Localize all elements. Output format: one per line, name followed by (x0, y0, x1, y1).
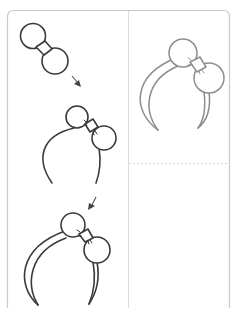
headband-outer-left (24, 231, 65, 305)
headband-outer-right (89, 262, 94, 304)
arrow-down-left-icon (88, 197, 96, 210)
step-3-headband (24, 213, 110, 305)
arrow-down-right-icon (72, 76, 81, 87)
step-1-bow (21, 24, 69, 75)
bow-right-loop (92, 126, 116, 150)
drawing-worksheet: how to draw a headband with bow (0, 0, 235, 311)
final-headband-preview (140, 39, 224, 130)
headband-arc-right (96, 148, 100, 183)
step-2-headband (43, 106, 116, 183)
headband-inner-left (149, 66, 178, 130)
worksheet-canvas (0, 0, 235, 311)
worksheet-subject: how to draw a headband with bow (0, 0, 15, 1)
practice-drawing-area (130, 165, 228, 307)
headband-arc-left (43, 128, 74, 183)
